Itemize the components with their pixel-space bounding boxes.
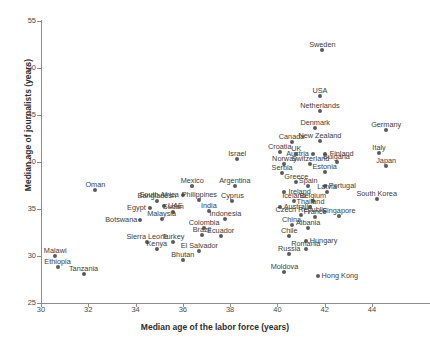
x-tick-label: 32 — [76, 306, 100, 314]
x-tick-label: 42 — [313, 306, 337, 314]
data-point-label: Bulgaria — [323, 153, 350, 161]
data-point-label: Malaysia — [147, 210, 176, 218]
data-point-label: Spain — [299, 177, 318, 185]
data-point-label: Albania — [296, 219, 320, 227]
data-point-label: UK — [291, 145, 301, 153]
data-point-label: Tanzania — [69, 265, 98, 273]
scatter-chart: 25303540455055 3032343638404244 Median a… — [0, 0, 430, 342]
x-tick-label: 36 — [171, 306, 195, 314]
x-tick-label: 40 — [265, 306, 289, 314]
data-point-label: Japan — [376, 157, 396, 165]
y-tick-label: 30 — [12, 252, 36, 260]
data-point-label: Bangladesh — [138, 192, 177, 200]
x-tick-label: 38 — [218, 306, 242, 314]
y-axis-title: Median age of journalists (years) — [23, 25, 33, 225]
y-tick-label: 55 — [12, 17, 36, 25]
data-point-label: Russia — [278, 245, 300, 253]
data-point-label: New Zealand — [298, 132, 341, 140]
data-point-label: Philippines — [182, 191, 217, 199]
data-point-label: Mexico — [181, 177, 204, 185]
data-point-label: Ethiopia — [44, 258, 70, 266]
data-point-label: Ecuador — [207, 227, 234, 235]
data-point-label: Botswana — [105, 216, 137, 224]
data-point-label: Moldova — [271, 263, 299, 271]
data-point-label: Denmark — [300, 119, 330, 127]
data-point[interactable] — [316, 274, 320, 278]
data-point-label: Netherlands — [300, 102, 339, 110]
data-point-label: Argentina — [219, 177, 250, 185]
data-point-label: Canada — [279, 133, 305, 141]
data-point-label: Oman — [85, 181, 105, 189]
data-point-label: USA — [312, 87, 327, 95]
x-tick-label: 44 — [360, 306, 384, 314]
x-tick-label: 34 — [124, 306, 148, 314]
x-axis-title: Median age of the labor force (years) — [0, 322, 430, 332]
data-point-label: Egypt — [127, 204, 146, 212]
data-point-label: Croatia — [268, 143, 292, 151]
data-point-label: Germany — [371, 121, 401, 129]
data-point-label: Italy — [372, 144, 385, 152]
data-point-label: Bhutan — [171, 251, 194, 259]
data-point-label: Chile — [281, 227, 298, 235]
data-point-label: Cyprus — [221, 192, 244, 200]
x-tick-label: 30 — [29, 306, 53, 314]
data-point[interactable] — [138, 218, 142, 222]
data-point-label: Estonia — [313, 163, 337, 171]
data-point-label: Kenya — [146, 240, 167, 248]
data-point-label: Israel — [228, 150, 246, 158]
data-point-label: Sweden — [309, 41, 335, 49]
data-point-label: South Korea — [356, 190, 397, 198]
data-point-label: Singapore — [322, 207, 355, 215]
plot-area: SwedenUSANetherlandsDenmarkGermanyNew Ze… — [41, 20, 430, 303]
data-point-label: Hong Kong — [322, 272, 359, 280]
data-point-label: Malawi — [44, 247, 67, 255]
data-point-label: Norway — [272, 155, 297, 163]
